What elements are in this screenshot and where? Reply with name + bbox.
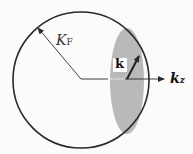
fermi-radius-label: KF (56, 32, 73, 48)
fermi-radius-label-sub: F (66, 37, 72, 47)
fermi-radius-label-main: K (56, 32, 66, 48)
vector-k-label: k (115, 56, 124, 71)
diagram-canvas (0, 0, 193, 154)
kz-axis-label-sub: z (180, 75, 185, 85)
fermi-sphere-diagram: KF k kz (0, 0, 193, 154)
kz-axis-label: kz (170, 70, 185, 86)
kz-axis-label-main: k (170, 70, 180, 86)
